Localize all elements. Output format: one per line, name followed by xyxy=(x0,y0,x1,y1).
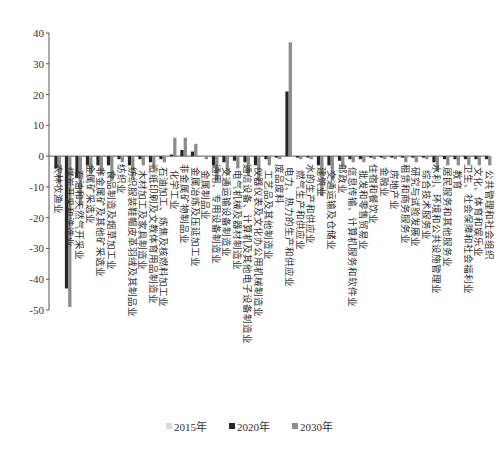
bar xyxy=(289,42,292,156)
bar xyxy=(401,156,404,158)
bar xyxy=(163,156,166,162)
y-tick-label: 40 xyxy=(33,27,45,39)
category-label: 金属矿采选业 xyxy=(85,164,96,224)
category-label: 非金属矿及其他矿采选业 xyxy=(95,167,106,277)
bar xyxy=(464,156,467,159)
category-label: 非金属矿物制品业 xyxy=(179,164,190,244)
bar xyxy=(359,156,362,159)
category-label: 化学工业 xyxy=(169,170,180,210)
legend: 2015年 2020年 2030年 xyxy=(0,418,499,434)
category-label: 卫生、社会保障和社会福利业 xyxy=(463,164,474,294)
bar xyxy=(373,156,376,159)
y-tick-label: 20 xyxy=(33,89,45,101)
category-label: 住宿和餐饮业 xyxy=(368,164,379,224)
category-label: 造纸印刷及文教体育用品制造业 xyxy=(148,164,159,304)
bar xyxy=(317,156,320,165)
category-label: 房地产业 xyxy=(389,170,400,210)
bar xyxy=(268,156,271,165)
bar xyxy=(348,156,351,159)
bar xyxy=(184,138,187,156)
category-label: 石油加工、炼焦及核燃料加工业 xyxy=(158,167,169,307)
y-tick-label: -30 xyxy=(29,242,44,254)
bar xyxy=(170,155,173,157)
category-label: 信息传输、计算机服务和软件业 xyxy=(347,167,358,307)
bar xyxy=(327,156,330,165)
bar xyxy=(222,156,225,162)
bar xyxy=(453,156,456,159)
category-label: 研究与试验发展业 xyxy=(410,167,421,247)
bar xyxy=(338,156,341,161)
bar xyxy=(443,156,446,159)
category-label: 通信设备、计算机及其他电子设备制造业 xyxy=(242,164,253,344)
bar-chart: 403020100-10-20-30-40-50 农林牧渔业煤炭开采和洗选业石油… xyxy=(0,0,499,453)
legend-label-2015: 2015年 xyxy=(174,418,207,434)
y-tick-label: -40 xyxy=(29,273,44,285)
bar xyxy=(142,156,145,165)
bar xyxy=(243,156,246,162)
bar xyxy=(194,144,197,156)
bar xyxy=(278,156,281,159)
bar xyxy=(394,156,397,159)
bar xyxy=(296,156,299,158)
bar xyxy=(180,150,183,156)
category-label: 燃气生产和供应业 xyxy=(295,170,306,250)
bar xyxy=(191,151,194,156)
bar xyxy=(310,156,313,159)
category-label: 纺织业 xyxy=(116,164,127,194)
category-label: 水利、环境和公共设施管理业 xyxy=(431,164,442,294)
bar xyxy=(117,156,120,159)
bar xyxy=(264,156,267,159)
bar xyxy=(254,156,257,165)
category-label: 公共管理和社会组织 xyxy=(484,170,495,260)
bar xyxy=(390,156,393,158)
bar xyxy=(149,156,152,162)
bar xyxy=(352,156,355,162)
bar xyxy=(299,156,302,159)
bar xyxy=(138,156,141,159)
bar xyxy=(173,138,176,156)
category-label: 租赁和商务服务业 xyxy=(400,164,411,244)
legend-item-2015: 2015年 xyxy=(166,418,207,434)
bar xyxy=(369,156,372,158)
bar xyxy=(205,156,208,159)
category-label: 交通运输设备制造业 xyxy=(221,167,232,257)
category-label: 交通运输及仓储业 xyxy=(326,170,337,250)
bar xyxy=(478,156,481,165)
bar xyxy=(422,156,425,158)
bar xyxy=(383,156,386,159)
category-label: 纺织服装鞋帽皮革羽绒及其制品业 xyxy=(127,167,138,317)
bar xyxy=(432,156,435,162)
category-label: 教育 xyxy=(452,170,463,190)
category-label: 金融业 xyxy=(379,167,390,197)
legend-item-2030: 2030年 xyxy=(292,418,333,434)
bar xyxy=(415,156,418,162)
bar xyxy=(404,156,407,162)
y-tick-label: -20 xyxy=(29,212,44,224)
category-label: 通用、专用设备制造业 xyxy=(211,164,222,264)
bar xyxy=(457,156,460,165)
legend-label-2020: 2020年 xyxy=(237,418,270,434)
bar xyxy=(425,156,428,159)
bar xyxy=(446,156,449,165)
bar xyxy=(107,156,110,165)
legend-label-2030: 2030年 xyxy=(300,418,333,434)
category-label: 食品制造及烟草加工业 xyxy=(106,170,117,270)
bar xyxy=(236,156,239,168)
legend-swatch-2015 xyxy=(166,423,172,429)
category-label: 水的生产和供应业 xyxy=(305,164,316,244)
y-tick-label: 0 xyxy=(39,150,45,162)
category-label: 综合技术服务业 xyxy=(421,170,432,240)
category-label: 废品废料 xyxy=(274,164,285,204)
bar xyxy=(485,156,488,159)
y-tick-label: 30 xyxy=(33,58,45,70)
bar xyxy=(285,91,288,156)
legend-swatch-2020 xyxy=(229,423,235,429)
category-labels: 农林牧渔业煤炭开采和洗选业石油和天然气开采业金属矿采选业非金属矿及其他矿采选业食… xyxy=(53,164,495,344)
category-label: 仪器仪表及文化办公用机械制造业 xyxy=(253,167,264,317)
bar xyxy=(275,156,278,158)
bar xyxy=(233,156,236,161)
bar xyxy=(121,156,124,162)
y-tick-label: 10 xyxy=(33,119,45,131)
category-label: 木材加工及家具制造业 xyxy=(137,170,148,270)
category-label: 电气机械及器材制造业 xyxy=(232,170,243,270)
